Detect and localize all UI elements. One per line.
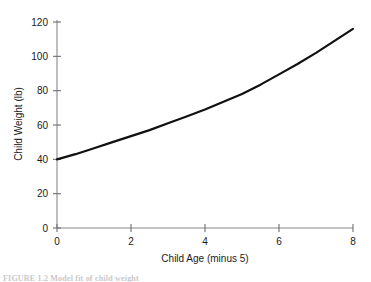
axis-lines <box>57 20 353 228</box>
y-tick-label: 0 <box>42 223 48 234</box>
y-axis-title: Child Weight (lb) <box>13 87 24 161</box>
x-tick-label: 4 <box>202 236 208 247</box>
x-axis-title: Child Age (minus 5) <box>161 253 248 264</box>
x-tick-label: 2 <box>128 236 134 247</box>
x-axis-tick-labels: 02468 <box>54 236 356 247</box>
y-tick-label: 120 <box>31 17 48 28</box>
y-tick-label: 80 <box>37 85 49 96</box>
x-tick-label: 6 <box>276 236 282 247</box>
weight-curve <box>57 29 353 159</box>
y-tick-label: 20 <box>37 188 49 199</box>
y-tick-label: 60 <box>37 120 49 131</box>
figure-caption: FIGURE 1.2 Model fit of child weight <box>3 273 139 282</box>
x-tick-label: 8 <box>350 236 356 247</box>
y-tick-label: 100 <box>31 51 48 62</box>
y-axis-tick-labels: 020406080100120 <box>31 17 48 234</box>
x-tick-label: 0 <box>54 236 60 247</box>
y-tick-label: 40 <box>37 154 49 165</box>
